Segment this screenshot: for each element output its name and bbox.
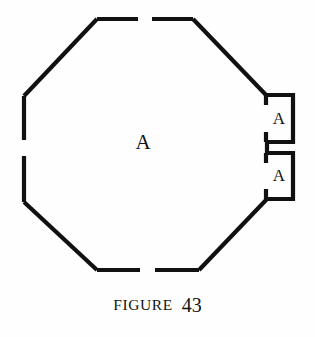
- caption-word: FIGURE: [113, 296, 173, 313]
- octagon-upper-left-diagonal: [24, 19, 97, 96]
- octagon-upper-right-diagonal: [193, 19, 267, 96]
- caption-number: 43: [182, 294, 202, 316]
- alcove-upper-label: A: [273, 109, 286, 128]
- figure-caption: FIGURE43: [0, 292, 315, 315]
- center-room-label: A: [135, 130, 151, 154]
- alcove-lower-label: A: [273, 166, 286, 185]
- octagon-lower-left-diagonal: [24, 202, 97, 270]
- figure-container: A A A FIGURE43: [0, 0, 315, 337]
- octagon-diagram: A A A: [0, 0, 315, 337]
- octagon-lower-right-diagonal: [199, 199, 267, 270]
